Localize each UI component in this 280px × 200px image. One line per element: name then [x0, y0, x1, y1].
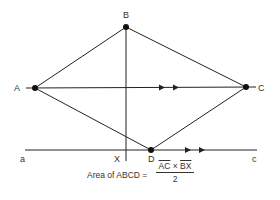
formula-fraction: AC × BX 2 [156, 161, 194, 184]
point-b [123, 24, 129, 30]
label-c: C [258, 83, 265, 93]
side-da [35, 88, 151, 150]
line-ac [26, 87, 256, 88]
point-a [32, 85, 38, 91]
formula-prefix: Area of ABCD = [87, 170, 147, 180]
area-formula: Area of ABCD = AC × BX 2 [0, 161, 280, 193]
segment-bx: BX [180, 161, 191, 171]
point-c [243, 84, 249, 90]
parallel-arrow-icon [159, 85, 165, 91]
side-cd [151, 87, 246, 150]
label-b: B [123, 10, 129, 20]
label-a: A [14, 83, 20, 93]
times-operator: × [173, 161, 178, 171]
parallel-arrow-icon [173, 85, 179, 91]
point-d [148, 147, 154, 153]
parallel-arrow-icon [199, 147, 205, 153]
side-ab [35, 27, 126, 88]
segment-ac: AC [159, 161, 171, 171]
parallel-arrow-icon [185, 147, 191, 153]
formula-numerator: AC × BX [156, 161, 194, 173]
side-bc [126, 27, 246, 87]
formula-denominator: 2 [156, 173, 194, 184]
